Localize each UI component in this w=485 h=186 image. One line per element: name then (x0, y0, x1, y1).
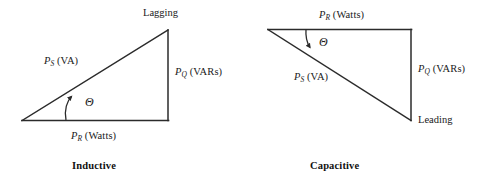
capacitive-triangle (268, 29, 412, 121)
pq-unit: (VARs) (190, 66, 223, 77)
capacitive-theta-symbol: Θ (319, 35, 328, 50)
inductive-caption: Inductive (72, 160, 116, 171)
theta-glyph: Θ (319, 35, 328, 49)
inductive-triangle (22, 30, 169, 121)
leading-text: Leading (418, 114, 452, 125)
inductive-angle-arrow (65, 97, 71, 121)
capacitive-vertex-label-leading: Leading (418, 114, 452, 125)
lagging-text: Lagging (143, 7, 178, 18)
inductive-real-power-label: PR (Watts) (71, 130, 116, 143)
capacitive-hypotenuse-side (268, 30, 411, 121)
inductive-caption-text: Inductive (72, 160, 116, 171)
inductive-reactive-power-label: PQ (VARs) (175, 66, 222, 79)
ps-unit: (VA) (57, 55, 78, 66)
capacitive-angle-arrow (306, 29, 310, 48)
triangle-lines-svg (0, 0, 485, 186)
inductive-theta-symbol: Θ (85, 95, 94, 110)
theta-glyph: Θ (85, 95, 94, 109)
inductive-apparent-power-label: PS (VA) (44, 55, 78, 68)
capacitive-apparent-power-label: PS (VA) (294, 71, 328, 84)
pq-unit: (VARs) (433, 63, 466, 74)
capacitive-real-power-label: PR (Watts) (319, 9, 364, 22)
inductive-hypotenuse-side (22, 30, 168, 121)
capacitive-caption-text: Capacitive (310, 160, 359, 171)
ps-unit: (VA) (307, 71, 328, 82)
capacitive-reactive-power-label: PQ (VARs) (418, 63, 465, 76)
pr-unit: (Watts) (333, 9, 364, 20)
capacitive-caption: Capacitive (310, 160, 359, 171)
inductive-vertex-label-lagging: Lagging (143, 7, 178, 18)
power-triangle-figure: Lagging PS (VA) PQ (VARs) PR (Watts) Θ I… (0, 0, 485, 186)
pr-unit: (Watts) (85, 130, 116, 141)
